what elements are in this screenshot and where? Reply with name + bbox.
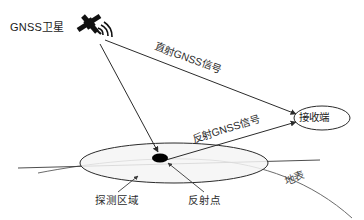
gnss-reflectometry-diagram: GNSS卫星 直射GNSS信号 反射GNSS信号 接收端 探测区域 反射点 地表	[0, 0, 364, 220]
reflection-point-label: 反射点	[188, 195, 221, 206]
detection-area-label: 探测区域	[95, 195, 139, 206]
receiver-label: 接收端	[299, 112, 329, 123]
satellite-icon	[78, 16, 101, 34]
signal-wave-icon	[98, 22, 112, 37]
detection-area-ellipse	[80, 143, 268, 183]
direct-signal-path	[105, 40, 296, 114]
diagram-canvas	[0, 0, 364, 220]
incident-signal-path	[100, 44, 158, 152]
reflection-point-dot	[152, 154, 168, 163]
satellite-label: GNSS卫星	[10, 22, 64, 33]
